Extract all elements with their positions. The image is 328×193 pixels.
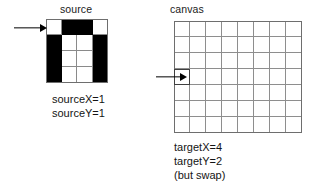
canvas-panel-title: canvas xyxy=(170,3,204,15)
canvas-cell-r3c7 xyxy=(286,69,302,85)
canvas-cell-r2c2 xyxy=(206,53,222,69)
source-cell-r1c1 xyxy=(62,35,78,51)
canvas-cell-r5c3 xyxy=(222,101,238,117)
canvas-cell-r6c2 xyxy=(206,117,222,133)
canvas-cell-r5c4 xyxy=(238,101,254,117)
canvas-caption: targetX=4 targetY=2 (but swap) xyxy=(174,140,225,182)
source-cell-r1c3 xyxy=(93,35,109,51)
canvas-cell-r6c3 xyxy=(222,117,238,133)
canvas-cell-r0c5 xyxy=(254,21,270,37)
canvas-cell-r5c0 xyxy=(174,101,190,117)
source-cell-r2c0 xyxy=(46,51,62,67)
canvas-cell-r6c4 xyxy=(238,117,254,133)
canvas-cell-r1c7 xyxy=(286,37,302,53)
canvas-cell-r6c1 xyxy=(190,117,206,133)
arrow-head xyxy=(40,24,47,32)
canvas-cell-r0c4 xyxy=(238,21,254,37)
canvas-cell-r0c1 xyxy=(190,21,206,37)
canvas-cell-r5c2 xyxy=(206,101,222,117)
source-y-label: sourceY=1 xyxy=(52,106,105,120)
target-x-label: targetX=4 xyxy=(174,140,225,154)
canvas-cell-r0c3 xyxy=(222,21,238,37)
canvas-cell-r6c0 xyxy=(174,117,190,133)
source-cell-r0c0 xyxy=(46,19,62,35)
canvas-cell-r2c5 xyxy=(254,53,270,69)
canvas-cell-r4c1 xyxy=(190,85,206,101)
source-cell-r3c1 xyxy=(62,67,78,83)
source-cell-r1c2 xyxy=(77,35,93,51)
canvas-cell-r2c1 xyxy=(190,53,206,69)
canvas-cell-r0c6 xyxy=(270,21,286,37)
source-x-label: sourceX=1 xyxy=(52,92,105,106)
canvas-cell-r1c4 xyxy=(238,37,254,53)
canvas-cell-r1c3 xyxy=(222,37,238,53)
canvas-cell-r5c7 xyxy=(286,101,302,117)
source-cell-r2c1 xyxy=(62,51,78,67)
canvas-cell-r6c6 xyxy=(270,117,286,133)
canvas-cell-r6c5 xyxy=(254,117,270,133)
canvas-cell-r1c1 xyxy=(190,37,206,53)
canvas-grid xyxy=(174,21,302,133)
source-cell-r0c3 xyxy=(93,19,109,35)
canvas-cell-r4c0 xyxy=(174,85,190,101)
canvas-cell-arrow-icon xyxy=(156,72,188,82)
source-cell-r0c2 xyxy=(77,19,93,35)
source-cell-r0c1 xyxy=(62,19,78,35)
canvas-cell-r2c6 xyxy=(270,53,286,69)
canvas-cell-r4c3 xyxy=(222,85,238,101)
source-caption: sourceX=1 sourceY=1 xyxy=(52,92,105,120)
canvas-cell-r2c0 xyxy=(174,53,190,69)
canvas-cell-r4c4 xyxy=(238,85,254,101)
source-cell-r2c3 xyxy=(93,51,109,67)
canvas-cell-r2c3 xyxy=(222,53,238,69)
canvas-cell-r0c2 xyxy=(206,21,222,37)
source-cell-r1c0 xyxy=(46,35,62,51)
canvas-cell-r0c0 xyxy=(174,21,190,37)
canvas-cell-r6c7 xyxy=(286,117,302,133)
canvas-cell-r2c7 xyxy=(286,53,302,69)
canvas-cell-r4c6 xyxy=(270,85,286,101)
canvas-cell-r4c7 xyxy=(286,85,302,101)
canvas-cell-r0c7 xyxy=(286,21,302,37)
canvas-cell-r5c6 xyxy=(270,101,286,117)
arrow-shaft xyxy=(14,27,42,28)
source-grid xyxy=(46,19,108,83)
canvas-cell-r3c4 xyxy=(238,69,254,85)
canvas-cell-r1c0 xyxy=(174,37,190,53)
canvas-cell-r3c1 xyxy=(190,69,206,85)
source-cell-r3c3 xyxy=(93,67,109,83)
canvas-cell-r3c6 xyxy=(270,69,286,85)
target-y-label: targetY=2 xyxy=(174,154,225,168)
arrow-head xyxy=(180,73,187,81)
source-panel-title: source xyxy=(60,3,92,15)
source-row-arrow-icon xyxy=(14,23,48,33)
canvas-cell-r2c4 xyxy=(238,53,254,69)
canvas-cell-r3c3 xyxy=(222,69,238,85)
canvas-cell-r3c5 xyxy=(254,69,270,85)
target-swap-note: (but swap) xyxy=(174,168,225,182)
arrow-shaft xyxy=(156,76,182,77)
canvas-cell-r1c6 xyxy=(270,37,286,53)
source-cell-r3c2 xyxy=(77,67,93,83)
canvas-cell-r5c5 xyxy=(254,101,270,117)
source-cell-r2c2 xyxy=(77,51,93,67)
canvas-cell-r4c2 xyxy=(206,85,222,101)
source-cell-r3c0 xyxy=(46,67,62,83)
canvas-cell-r4c5 xyxy=(254,85,270,101)
canvas-cell-r1c2 xyxy=(206,37,222,53)
canvas-cell-r1c5 xyxy=(254,37,270,53)
canvas-cell-r5c1 xyxy=(190,101,206,117)
canvas-cell-r3c2 xyxy=(206,69,222,85)
